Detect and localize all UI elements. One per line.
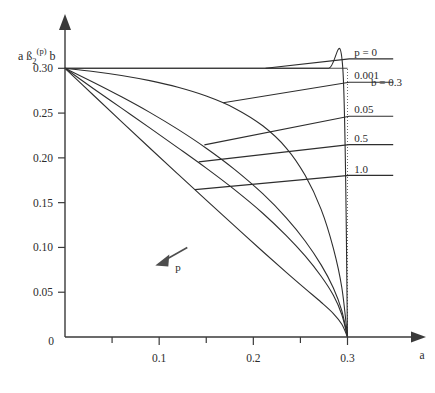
x-axis-name: a: [419, 349, 424, 361]
parameter-note: b = 0.3: [371, 76, 402, 88]
legend-label-0_5: 0.5: [354, 132, 368, 144]
y-tick-label-3: 0.20: [33, 152, 53, 164]
axis-names-layer: aa ß2(p) b: [18, 46, 425, 361]
y-tick-label-0: 0.05: [33, 286, 53, 298]
tick-labels-layer: 0.050.100.150.200.250.3000.10.20.3: [33, 62, 355, 364]
chart-figure: 0.050.100.150.200.250.3000.10.20.3 p = 0…: [0, 0, 435, 393]
legend-label-1: 1.0: [354, 163, 368, 175]
legend-labels-layer: p = 00.0010.050.51.0: [354, 46, 379, 174]
direction-arrow-label: p: [175, 261, 181, 273]
y-axis-arrowhead: [59, 14, 71, 30]
curve-p-1: [65, 68, 348, 337]
x-tick-label-3: 0.3: [340, 352, 355, 364]
x-tick-label-0: 0: [48, 335, 54, 347]
curve-p-0: [65, 48, 348, 337]
legend-leader-0_001: [223, 82, 393, 103]
legend-leader-0: [266, 59, 394, 68]
parametric-curve-plot: 0.050.100.150.200.250.3000.10.20.3 p = 0…: [0, 0, 435, 393]
legend-label-0: p = 0: [354, 46, 377, 58]
y-tick-label-4: 0.25: [33, 107, 53, 119]
x-tick-label-1: 0.1: [152, 352, 167, 364]
axes-layer: [58, 14, 426, 345]
y-tick-label-2: 0.15: [33, 197, 53, 209]
x-tick-label-2: 0.2: [246, 352, 261, 364]
curves-layer: [65, 48, 348, 337]
legend-leader-0_5: [199, 145, 393, 162]
legend-label-0_05: 0.05: [354, 103, 374, 115]
direction-arrowhead-icon: [155, 255, 169, 267]
x-axis-arrowhead: [411, 332, 426, 343]
y-tick-label-1: 0.10: [33, 241, 53, 253]
